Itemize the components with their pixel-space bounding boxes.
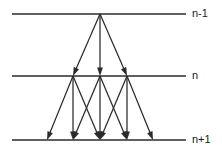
diagram-canvas: n-1nn+1 xyxy=(0,0,222,151)
transition-arrow xyxy=(127,76,153,140)
transition-arrow xyxy=(70,76,76,140)
arrow-shaft xyxy=(100,14,124,69)
arrow-head-icon xyxy=(97,68,103,77)
transition-arrow xyxy=(97,76,103,140)
arrow-head-icon xyxy=(147,131,153,140)
transition-arrow xyxy=(97,14,103,76)
level-label-nplus1: n+1 xyxy=(192,133,211,145)
arrow-shaft xyxy=(76,76,100,133)
arrow-head-icon xyxy=(73,131,79,140)
transition-arrow xyxy=(124,76,130,140)
arrow-head-icon xyxy=(47,131,53,140)
transition-arrow xyxy=(73,14,100,76)
level-label-n: n xyxy=(192,69,198,81)
arrow-shaft xyxy=(127,76,150,133)
arrow-shaft xyxy=(73,76,97,133)
arrow-head-icon xyxy=(121,67,127,76)
arrow-shaft xyxy=(100,76,124,133)
transitions-layer xyxy=(47,14,153,140)
transition-arrow xyxy=(47,76,73,140)
arrow-head-icon xyxy=(100,131,106,140)
arrow-shaft xyxy=(50,76,73,133)
level-label-nminus1: n-1 xyxy=(192,7,208,19)
arrow-head-icon xyxy=(73,67,79,76)
arrow-shaft xyxy=(76,14,100,69)
level-labels-layer: n-1nn+1 xyxy=(192,7,211,145)
cascade-diagram-figure: n-1nn+1 xyxy=(0,0,222,151)
transition-arrow xyxy=(100,14,127,76)
arrow-shaft xyxy=(103,76,127,133)
